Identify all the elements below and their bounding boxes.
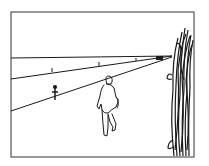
distant-vehicle: [156, 56, 163, 60]
illustration-scene: [0, 0, 209, 166]
picture-frame: [11, 12, 194, 157]
